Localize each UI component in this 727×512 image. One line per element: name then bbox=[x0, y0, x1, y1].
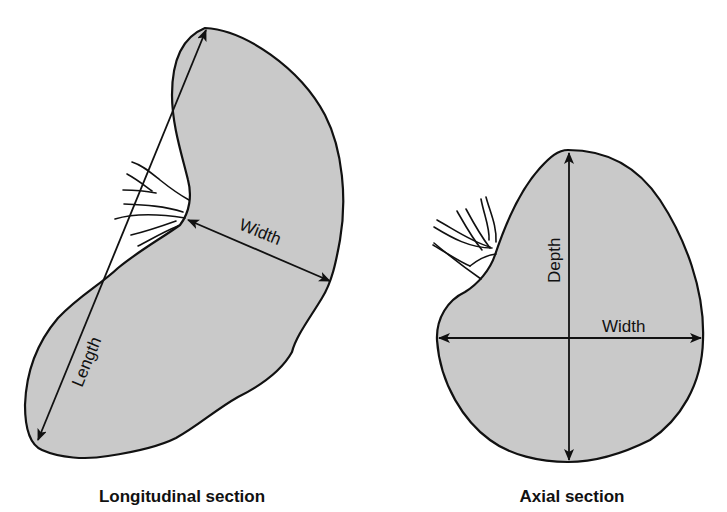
axial-section: Depth Width Axial section bbox=[433, 150, 703, 506]
axial-width-label: Width bbox=[602, 317, 645, 336]
axial-organ-outline bbox=[437, 150, 703, 462]
diagram-canvas: Length Width Longitudinal section Depth … bbox=[0, 0, 727, 512]
longitudinal-section: Length Width Longitudinal section bbox=[25, 28, 343, 506]
depth-label: Depth bbox=[545, 238, 564, 283]
axial-vessels bbox=[433, 197, 496, 279]
axial-caption: Axial section bbox=[520, 487, 625, 506]
longitudinal-caption: Longitudinal section bbox=[99, 487, 265, 506]
longitudinal-organ-outline bbox=[25, 28, 343, 458]
